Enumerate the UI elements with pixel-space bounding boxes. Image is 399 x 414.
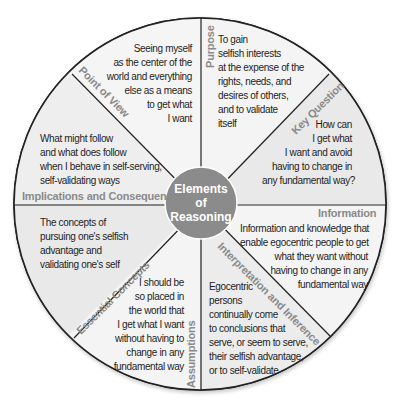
text-line: their selfish advantage,	[209, 350, 308, 364]
text-line: What might follow	[40, 132, 162, 146]
text-line: I get what I want	[100, 318, 184, 332]
segment-concepts-text: The concepts of pursuing one's selfish a…	[40, 216, 128, 272]
text-line: without having to	[100, 332, 184, 346]
text-line: at the expense of the	[218, 61, 304, 75]
text-line: and what does follow	[40, 146, 162, 160]
text-line: to conclusions that	[209, 322, 308, 336]
text-line: rights, needs, and	[218, 75, 304, 89]
text-line: else as a means	[98, 84, 192, 98]
text-line: selfish interests	[218, 47, 304, 61]
text-line: when I behave in self-serving,	[40, 160, 162, 174]
segment-purpose-text: To gain selfish interests at the expense…	[218, 33, 304, 131]
label-information: Information	[318, 207, 376, 219]
text-line: How can	[262, 118, 352, 132]
text-line: world and everything	[98, 70, 192, 84]
segment-interpretation-text: Egocentric persons continually come to c…	[209, 280, 308, 378]
text-line: I want	[98, 112, 192, 126]
text-line: serve, or seem to serve,	[209, 336, 308, 350]
text-line: to get what	[98, 98, 192, 112]
segment-point-of-view-text: Seeing myself as the center of the world…	[98, 42, 192, 126]
text-line: as the center of the	[98, 56, 192, 70]
text-line: pursuing one's selfish	[40, 230, 128, 244]
text-line: continually come	[209, 308, 308, 322]
text-line: I get what	[262, 132, 352, 146]
text-line: advantage and	[40, 244, 128, 258]
text-line: having to change in	[262, 160, 352, 174]
text-line: desires of others,	[218, 89, 304, 103]
text-line: and to validate	[218, 103, 304, 117]
text-line: self-validating ways	[40, 174, 162, 188]
text-line: fundamental way	[100, 360, 184, 374]
text-line: validating one's self	[40, 258, 128, 272]
label-assumptions: Assumptions	[185, 321, 197, 388]
text-line: Information and knowledge that	[240, 222, 368, 236]
text-line: enable egocentric people to get	[240, 236, 368, 250]
text-line: Egocentric	[209, 280, 308, 294]
label-purpose: Purpose	[204, 25, 216, 68]
text-line: I want and avoid	[262, 146, 352, 160]
text-line: Seeing myself	[98, 42, 192, 56]
text-line: any fundamental way?	[262, 174, 352, 188]
label-implications-and-consequences: Implications and Consequences	[22, 190, 184, 202]
text-line: The concepts of	[40, 216, 128, 230]
center-title: Elements of Reasoning	[165, 167, 237, 239]
text-line: what they want without	[240, 250, 368, 264]
segment-implications-text: What might follow and what does follow w…	[40, 132, 162, 188]
text-line: persons	[209, 294, 308, 308]
center-title-line-2: of	[195, 196, 206, 210]
text-line: or to self-validate	[209, 364, 308, 378]
segment-key-question-text: How can I get what I want and avoid havi…	[262, 118, 352, 188]
center-title-line-3: Reasoning	[170, 210, 231, 224]
text-line: change in any	[100, 346, 184, 360]
text-line: To gain	[218, 33, 304, 47]
